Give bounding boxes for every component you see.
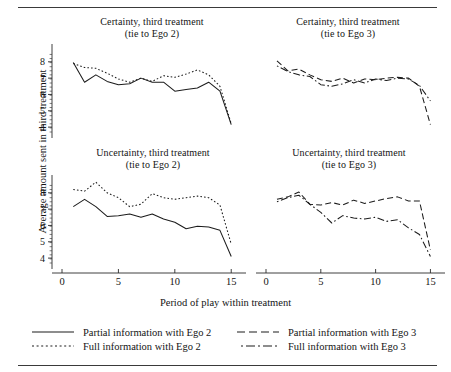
series-line [73, 182, 231, 244]
svg-text:4: 4 [40, 122, 45, 133]
svg-text:6: 6 [40, 220, 45, 231]
figure-container: Average amount sent in third treatment P… [0, 0, 451, 372]
svg-text:5: 5 [40, 105, 45, 116]
legend-item-partial-ego2: Partial information with Ego 2 [30, 327, 235, 338]
series-line [277, 195, 430, 256]
legend: Partial information with Ego 2 Partial i… [0, 325, 451, 353]
dashed-line-key [235, 327, 281, 337]
solid-line-key [30, 327, 76, 337]
legend-item-partial-ego3: Partial information with Ego 3 [235, 327, 416, 338]
dotted-line-key [30, 341, 76, 351]
legend-label: Partial information with Ego 2 [83, 327, 211, 338]
legend-label: Full information with Ego 2 [83, 341, 201, 352]
legend-label: Full information with Ego 3 [288, 341, 406, 352]
svg-text:15: 15 [425, 276, 436, 287]
svg-text:5: 5 [40, 236, 45, 247]
svg-text:7: 7 [40, 204, 45, 215]
legend-label: Partial information with Ego 3 [288, 327, 416, 338]
legend-item-full-ego3: Full information with Ego 3 [235, 341, 406, 352]
legend-row-full: Full information with Ego 2 Full informa… [0, 339, 451, 353]
svg-text:5: 5 [116, 276, 121, 287]
svg-text:10: 10 [170, 276, 181, 287]
series-line [73, 63, 231, 123]
legend-row-partial: Partial information with Ego 2 Partial i… [0, 325, 451, 339]
series-line [277, 192, 430, 250]
series-line [277, 61, 430, 125]
svg-text:10: 10 [370, 276, 381, 287]
legend-item-full-ego2: Full information with Ego 2 [30, 341, 235, 352]
svg-text:5: 5 [318, 276, 323, 287]
svg-text:7: 7 [40, 73, 45, 84]
svg-text:8: 8 [40, 56, 45, 67]
series-line [73, 63, 231, 125]
svg-text:4: 4 [40, 253, 45, 264]
plot-canvas: 4567845678051015051015 [0, 0, 451, 372]
svg-text:0: 0 [263, 276, 268, 287]
dashdot-line-key [235, 341, 281, 351]
svg-text:6: 6 [40, 89, 45, 100]
svg-text:15: 15 [226, 276, 237, 287]
svg-text:8: 8 [40, 187, 45, 198]
series-line [73, 199, 231, 256]
svg-text:0: 0 [59, 276, 64, 287]
